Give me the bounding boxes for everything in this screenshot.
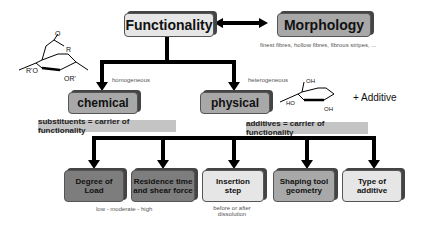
leaf-1-line1: Degree of <box>76 177 113 186</box>
leaf-3-line1: Insertion <box>216 177 250 186</box>
leaf-5-line2: additive <box>357 186 387 195</box>
molecule-right-oh-top: OH <box>306 78 315 84</box>
homogeneous-note: homogeneous <box>112 77 150 83</box>
connector-leaf-5 <box>372 136 376 162</box>
molecule-right-ho: HO <box>286 100 295 106</box>
leaf-type-of-additive: Type of additive <box>342 170 402 202</box>
additives-band: additives = carrier of functionality <box>246 122 368 134</box>
leaf-2-line2: and shear force <box>133 186 193 195</box>
leaf-3-line2: step <box>225 186 241 195</box>
molecule-left-or: OR' <box>64 75 76 82</box>
connector-leaf-3 <box>232 136 236 162</box>
morphology-note: finest fibres, hollow fibres, fibrous st… <box>260 42 376 48</box>
insertion-step-note: before or after dissolution <box>208 205 256 217</box>
molecule-left-ro: R'O <box>26 67 38 74</box>
arrow-chemical <box>96 82 108 92</box>
leaf-degree-of-load: Degree of Load <box>64 170 124 202</box>
substituents-band: substituents = carrier of functionality <box>38 120 176 132</box>
chemical-box: chemical <box>68 92 138 114</box>
degree-of-load-note: low - moderate - high <box>96 206 152 212</box>
leaf-shaping-tool: Shaping tool geometry <box>273 170 335 202</box>
leaf-2-line1: Residence time <box>134 177 193 186</box>
connector-branch-h <box>100 60 236 64</box>
leaf-4-line1: Shaping tool <box>280 177 328 186</box>
morphology-box: Morphology <box>277 13 371 37</box>
leaf-residence-time: Residence time and shear force <box>131 170 195 202</box>
functionality-box: Functionality <box>124 13 214 37</box>
leaf-1-line2: Load <box>84 186 103 195</box>
arrow-leaf-5 <box>368 160 380 170</box>
physical-box: physical <box>200 92 270 114</box>
molecule-left-r: R <box>66 46 71 53</box>
double-arrow-icon <box>214 18 268 28</box>
connector-leaf-2 <box>161 136 165 162</box>
arrow-leaf-1 <box>88 160 100 170</box>
leaf-4-line2: geometry <box>286 186 322 195</box>
molecule-right-oh-bottom: OH <box>324 106 333 112</box>
arrow-leaf-2 <box>157 160 169 170</box>
additive-label: + Additive <box>353 92 397 103</box>
connector-leaf-1 <box>92 136 96 162</box>
leaf-5-line1: Type of <box>358 177 386 186</box>
connector-chemical-v <box>100 60 104 84</box>
arrow-physical <box>228 82 240 92</box>
leaf-insertion-step: Insertion step <box>202 170 264 202</box>
molecule-left-o1: O <box>55 30 60 37</box>
connector-functionality-down <box>165 36 169 62</box>
connector-leaf-4 <box>305 136 309 162</box>
arrow-leaf-4 <box>301 160 313 170</box>
arrow-leaf-3 <box>228 160 240 170</box>
connector-physical-v <box>232 60 236 84</box>
